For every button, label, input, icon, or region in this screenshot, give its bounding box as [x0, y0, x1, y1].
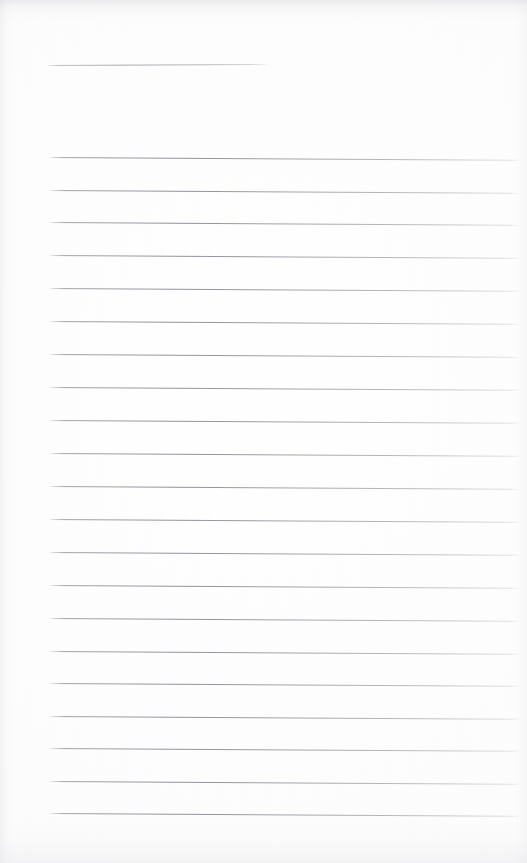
ruled-line — [50, 813, 519, 817]
ruled-line — [50, 255, 519, 259]
ruled-line — [50, 354, 519, 358]
ruled-line — [50, 222, 519, 226]
ruled-line — [50, 387, 519, 391]
ruled-line — [50, 321, 519, 325]
scanned-page — [0, 0, 527, 863]
ruled-line — [50, 453, 519, 457]
title-rule — [48, 64, 267, 66]
ruled-line — [50, 157, 519, 161]
ruled-line — [50, 748, 519, 752]
ruled-line — [50, 618, 519, 622]
ruled-line — [50, 716, 519, 720]
ruled-line — [50, 190, 519, 194]
ruled-line — [50, 288, 519, 292]
ruled-line — [50, 651, 519, 655]
ruled-line — [50, 585, 519, 589]
ruled-lines-layer — [0, 0, 527, 863]
ruled-line — [50, 519, 519, 523]
ruled-line — [50, 486, 519, 490]
ruled-line — [50, 781, 519, 785]
ruled-line — [50, 683, 519, 687]
ruled-line — [50, 420, 519, 424]
ruled-line — [50, 552, 519, 556]
